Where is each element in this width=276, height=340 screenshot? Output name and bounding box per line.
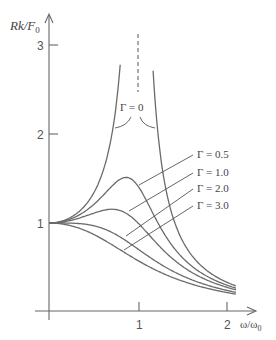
curve-gamma-3 — [49, 223, 236, 294]
label-gamma-3: Γ = 3.0 — [197, 199, 229, 211]
x-tick-label-1: 1 — [136, 318, 143, 332]
label-gamma-05: Γ = 0.5 — [197, 148, 229, 160]
curves — [49, 65, 236, 294]
leader-gamma-05 — [139, 155, 193, 185]
resonance-chart: 3 2 1 1 2 Rk/F0 ω/ω0 Γ = 0 Γ = 0.5 Γ = 1… — [0, 0, 276, 340]
label-gamma-0: Γ = 0 — [120, 101, 144, 113]
gamma-0-hook-right — [140, 117, 155, 128]
leader-gamma-1 — [129, 173, 193, 211]
y-axis-label: Rk/F0 — [9, 18, 40, 35]
y-tick-label-2: 2 — [37, 128, 44, 142]
x-axis-label: ω/ω0 — [240, 318, 262, 333]
curve-gamma-0 — [153, 71, 236, 286]
leader-gamma-3 — [124, 206, 193, 250]
y-tick-label-1: 1 — [37, 217, 44, 231]
curve-gamma-1 — [49, 209, 236, 290]
curve-gamma-0 — [49, 65, 120, 223]
y-tick-label-3: 3 — [37, 39, 44, 53]
x-tick-label-2: 2 — [224, 318, 231, 332]
curve-gamma-2 — [49, 223, 236, 292]
label-gamma-1: Γ = 1.0 — [197, 166, 229, 178]
gamma-0-hook-left — [115, 117, 131, 128]
label-gamma-2: Γ = 2.0 — [197, 182, 229, 194]
